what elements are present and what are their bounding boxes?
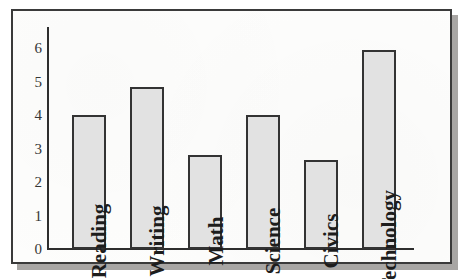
plot-area: 0123456 ReadingWritingMathScienceCivicsT… [0, 0, 466, 279]
y-axis-line [47, 27, 49, 250]
y-tick-label: 5 [20, 74, 42, 89]
y-tick-label: 3 [20, 141, 42, 156]
y-tick-label: 6 [20, 41, 42, 56]
y-tick-label: 2 [20, 175, 42, 190]
y-tick-label: 0 [20, 242, 42, 257]
bar-chart-figure: 0123456 ReadingWritingMathScienceCivicsT… [0, 0, 466, 279]
y-tick-label: 4 [20, 108, 42, 123]
y-tick-label: 1 [20, 208, 42, 223]
